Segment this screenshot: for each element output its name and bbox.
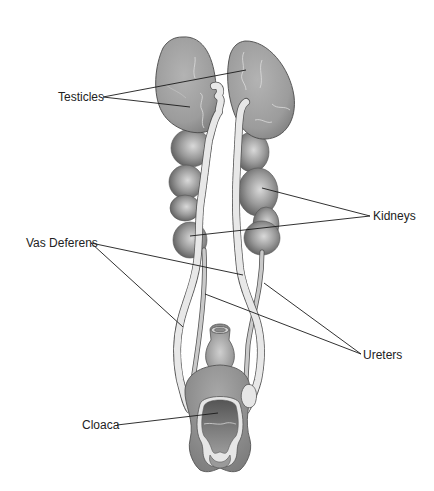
cloaca-structure (185, 324, 251, 472)
label-cloaca: Cloaca (82, 418, 120, 432)
vas-deferens-leader-right (91, 243, 243, 275)
label-kidneys: Kidneys (373, 209, 416, 223)
vas-deferens-leader-left (91, 243, 183, 327)
left-testicle (156, 37, 219, 133)
anatomy-diagram: Testicles Kidneys Vas Deferens Ureters C… (0, 0, 434, 491)
vas-deferens-terminal (241, 384, 256, 407)
label-ureters: Ureters (363, 348, 402, 362)
label-testicles: Testicles (58, 90, 104, 104)
kidneys-leader-left (190, 216, 370, 236)
label-vas-deferens: Vas Deferens (26, 236, 98, 250)
kidneys-leader-right (262, 188, 370, 216)
ureters-leader-right (264, 283, 361, 354)
